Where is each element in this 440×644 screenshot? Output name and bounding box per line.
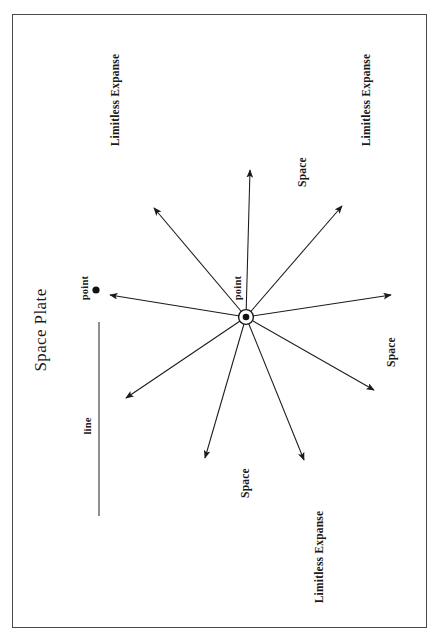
label-limitless-expanse-top-left: Limitless Expanse [110, 54, 122, 147]
label-limitless-expanse-bottom: Limitless Expanse [314, 511, 326, 604]
label-space-bottom: Space [240, 468, 252, 498]
label-space-upper-right: Space [297, 157, 309, 187]
label-space-right: Space [386, 337, 398, 367]
label-limitless-expanse-top-right: Limitless Expanse [361, 54, 373, 147]
label-line: line [83, 417, 94, 434]
page-title: Space Plate [32, 288, 49, 371]
label-center-point: point [233, 276, 244, 300]
label-free-point: point [80, 276, 91, 300]
figure-page: Space Plate Limitless Expanse Limitless … [0, 0, 440, 644]
